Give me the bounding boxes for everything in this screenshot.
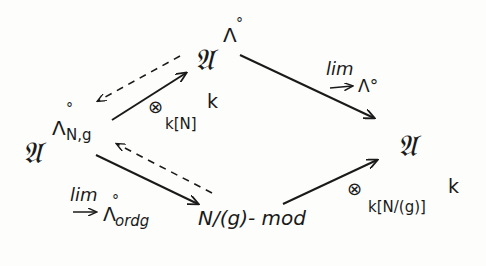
node-left-base: 𝔄 [22,138,42,168]
node-left-lambda: Λ [52,118,66,138]
arrow-top-to-left-dashed [98,56,180,101]
lim-arrow-top [330,86,352,88]
lim-text: lim [326,60,354,78]
arrow-bottom-to-right [283,160,377,204]
node-left-ring: ° [66,101,73,115]
tensor-subscript: k[N] [165,117,197,132]
lim-index-subscript: ordg [115,214,149,229]
tensor-superscript: k [207,92,218,111]
tensor-icon: ⊗ [148,98,163,116]
node-bottom-label: N/(g)- mod [198,208,306,228]
tensor-superscript: k [448,177,459,196]
lim-text: lim [70,186,98,204]
tensor-icon: ⊗ [347,180,362,198]
node-left-subscript: N,g [66,128,92,143]
node-right-base: 𝔄 [397,131,417,161]
node-top-base: 𝔄 [194,45,214,75]
lim-index: Λ° [358,78,378,95]
commutative-diagram: 𝔄 Λ ° N,g 𝔄 Λ ° 𝔄 N/(g)- mod ⊗ k[N] k li… [0,0,486,266]
node-top-ring: ° [236,16,243,30]
arrow-top-to-right [240,55,374,118]
arrow-bottom-to-left-dashed [117,144,212,193]
node-top-lambda: Λ [223,25,237,45]
tensor-subscript: k[N/(g)] [368,200,426,215]
lim-index-ring: ° [112,193,119,207]
